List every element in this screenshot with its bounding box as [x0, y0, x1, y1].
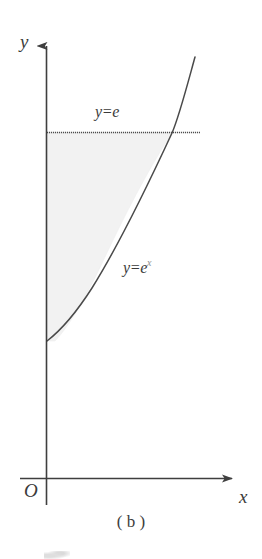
figure-b: y x O y=e y=ex ( b )	[0, 0, 262, 559]
figure-caption: ( b )	[0, 512, 262, 532]
origin-label: O	[24, 481, 38, 500]
label-y-equals-e-to-the-x: y=ex	[123, 259, 151, 276]
exponential-region-plot	[0, 0, 262, 559]
shaded-region	[47, 133, 172, 341]
label-curve-exponent: x	[147, 257, 151, 268]
y-axis-label: y	[20, 32, 28, 51]
label-y-equals-e: y=e	[95, 104, 119, 120]
label-curve-base: y=e	[123, 259, 147, 276]
x-axis-label: x	[239, 487, 247, 506]
